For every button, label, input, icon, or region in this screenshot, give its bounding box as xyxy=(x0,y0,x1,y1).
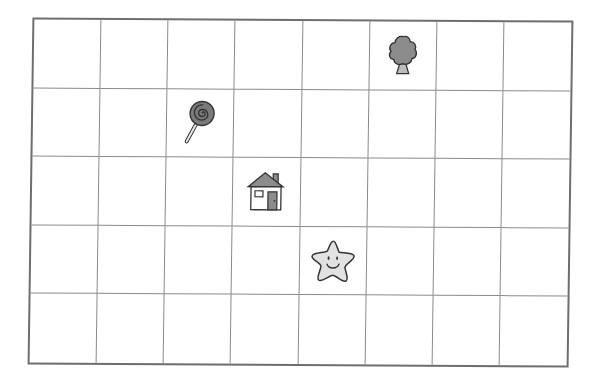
grid-cell xyxy=(235,21,303,90)
grid-cell xyxy=(31,225,99,294)
grid-cell xyxy=(433,228,501,297)
grid-cell xyxy=(32,157,100,226)
grid-board xyxy=(28,18,574,368)
house-icon xyxy=(246,170,287,214)
grid-cell xyxy=(168,20,236,89)
lollipop-icon xyxy=(182,99,219,147)
star-item xyxy=(308,238,357,284)
grid-cell xyxy=(164,295,232,364)
grid-cell xyxy=(434,159,502,228)
tree-icon xyxy=(385,33,420,77)
grid-cell xyxy=(101,20,169,89)
grid-cell xyxy=(436,22,504,91)
grid-cell xyxy=(167,89,235,158)
grid-cell xyxy=(367,159,435,228)
grid-cell xyxy=(369,21,437,90)
grid-cell xyxy=(98,226,166,295)
grid-cell xyxy=(234,89,302,158)
grid-cell xyxy=(366,227,434,296)
grid-cell xyxy=(165,226,233,295)
tree-item xyxy=(385,33,420,77)
grid-cell xyxy=(499,297,567,366)
grid-cell xyxy=(97,294,165,363)
house-item xyxy=(246,170,287,214)
grid-cell xyxy=(432,296,500,365)
grid-cell xyxy=(503,22,571,91)
grid-cell xyxy=(32,88,100,157)
grid-cell xyxy=(365,296,433,365)
grid-cell xyxy=(30,294,98,363)
grid-cell xyxy=(301,90,369,159)
grid-cell xyxy=(232,226,300,295)
grid-cell xyxy=(166,157,234,226)
grid-cell xyxy=(435,90,503,159)
grid-cell xyxy=(300,158,368,227)
grid-cell xyxy=(33,20,101,89)
grid-cell xyxy=(502,91,570,160)
grid-cell xyxy=(99,157,167,226)
grid-cell xyxy=(302,21,370,90)
grid-cell xyxy=(231,295,299,364)
lollipop-item xyxy=(182,99,219,147)
grid-cell xyxy=(298,295,366,364)
grid-cell xyxy=(299,227,367,296)
grid-cell xyxy=(100,88,168,157)
grid-cell xyxy=(500,228,568,297)
grid-cell xyxy=(501,159,569,228)
star-icon xyxy=(308,238,357,284)
grid-cell xyxy=(368,90,436,159)
grid-cell xyxy=(233,158,301,227)
